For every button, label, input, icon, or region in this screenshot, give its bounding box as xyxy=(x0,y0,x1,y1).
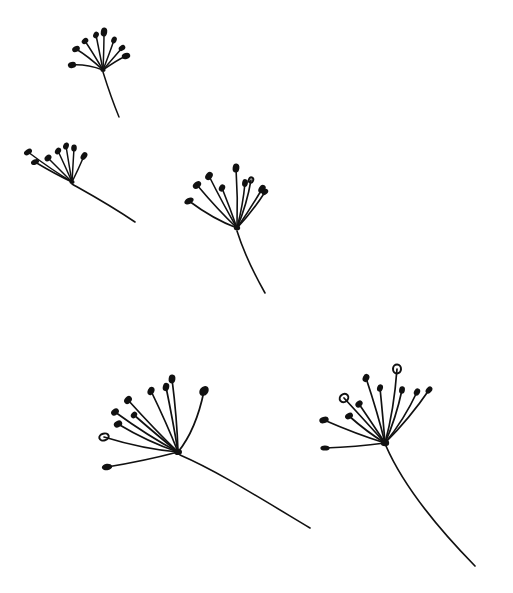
illustration-canvas xyxy=(0,0,513,593)
seed-pod xyxy=(320,445,329,450)
seed-hub xyxy=(381,440,389,447)
canvas-background xyxy=(0,0,513,593)
seed-hub xyxy=(234,226,240,231)
seed-hub xyxy=(100,68,105,72)
seed-hub xyxy=(69,180,74,184)
seed-hub xyxy=(174,449,182,455)
dandelion-scene xyxy=(0,0,513,593)
